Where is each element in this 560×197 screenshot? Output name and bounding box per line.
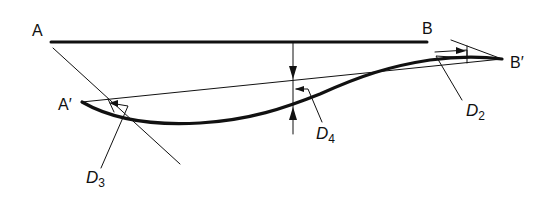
beam-deflection-diagram: A B A′ B′ D2 D3 D4 xyxy=(0,0,560,197)
d4-arrowhead-up xyxy=(289,107,297,120)
label-point-b-prime: B′ xyxy=(510,54,524,71)
label-d4-letter: D xyxy=(316,124,328,143)
label-d2: D2 xyxy=(466,101,485,123)
label-d4-subscript: 4 xyxy=(328,132,335,146)
d4-arrowhead-down xyxy=(289,66,297,79)
label-d2-letter: D xyxy=(466,101,478,120)
chord-a-prime-b-prime xyxy=(82,59,502,102)
label-d3-subscript: 3 xyxy=(98,176,105,190)
d4-leader-arrowhead xyxy=(295,86,304,92)
label-d4: D4 xyxy=(316,124,335,146)
label-d3-letter: D xyxy=(86,168,98,187)
label-d3: D3 xyxy=(86,168,105,190)
label-point-a-prime: A′ xyxy=(58,96,72,113)
d2-arrowhead xyxy=(456,47,466,54)
label-point-a: A xyxy=(32,22,43,39)
label-point-b: B xyxy=(422,20,433,37)
label-d2-subscript: 2 xyxy=(478,109,485,123)
